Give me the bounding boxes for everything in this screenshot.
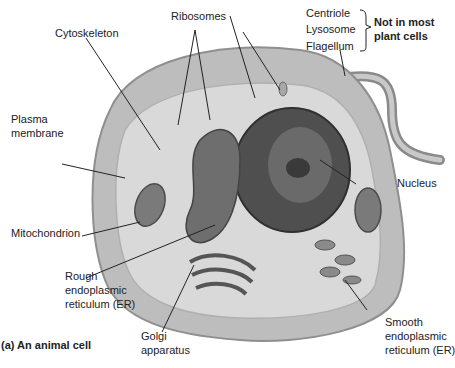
label-plasma-membrane-1: Plasma xyxy=(11,113,48,126)
label-rough-er-3: reticulum (ER) xyxy=(65,298,135,311)
label-smooth-er-1: Smooth xyxy=(385,316,423,329)
label-golgi-2: apparatus xyxy=(141,344,190,357)
label-rough-er-2: endoplasmic xyxy=(65,284,127,297)
figure-caption: (a) An animal cell xyxy=(1,339,91,352)
label-plasma-membrane-2: membrane xyxy=(11,127,64,140)
label-not-in-plant-cells-1: Not in most xyxy=(374,16,435,29)
label-ribosomes: Ribosomes xyxy=(171,10,226,23)
label-mitochondrion: Mitochondrion xyxy=(11,227,80,240)
label-lysosome: Lysosome xyxy=(306,23,356,36)
label-centriole: Centriole xyxy=(306,7,350,20)
label-nucleus: Nucleus xyxy=(397,177,437,190)
label-not-in-plant-cells-2: plant cells xyxy=(374,30,428,43)
label-golgi-1: Golgi xyxy=(141,330,167,343)
label-flagellum: Flagellum xyxy=(306,40,354,53)
label-smooth-er-2: endoplasmic xyxy=(385,330,447,343)
label-rough-er-1: Rough xyxy=(65,270,97,283)
label-cytoskeleton: Cytoskeleton xyxy=(55,27,119,40)
label-smooth-er-3: reticulum (ER) xyxy=(385,344,455,357)
